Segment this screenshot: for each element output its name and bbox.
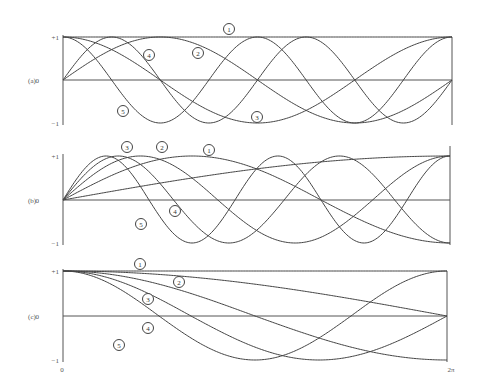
curve-label-badge: 5 bbox=[136, 219, 147, 230]
curve-label-badge: 5 bbox=[118, 106, 129, 117]
ytick-plus-one: +1 bbox=[52, 268, 60, 276]
badge-number: 2 bbox=[196, 50, 200, 58]
ytick-zero: 0 bbox=[36, 77, 40, 85]
badge-number: 4 bbox=[146, 325, 150, 333]
curve-label-badge: 4 bbox=[144, 50, 155, 61]
curve-2 bbox=[63, 271, 447, 316]
badge-number: 3 bbox=[125, 144, 129, 152]
badge-number: 1 bbox=[207, 147, 211, 155]
panel-label: (c) bbox=[28, 313, 36, 321]
panel-label: (a) bbox=[28, 77, 36, 85]
curve-label-badge: 2 bbox=[193, 48, 204, 59]
panel-b: +10−1(b)32145 bbox=[28, 142, 450, 248]
curve-label-badge: 1 bbox=[204, 145, 215, 156]
ytick-minus-one: −1 bbox=[52, 357, 60, 365]
badge-number: 5 bbox=[139, 221, 143, 229]
badge-number: 4 bbox=[147, 52, 151, 60]
ytick-plus-one: +1 bbox=[52, 34, 60, 42]
curve-label-badge: 3 bbox=[252, 112, 263, 123]
badge-number: 2 bbox=[160, 144, 164, 152]
xtick-zero: 0 bbox=[60, 366, 64, 374]
panel-c: +10−1(c)02π12345 bbox=[28, 259, 455, 375]
ytick-zero: 0 bbox=[36, 197, 40, 205]
ytick-plus-one: +1 bbox=[52, 153, 60, 161]
curve-label-badge: 1 bbox=[224, 24, 235, 35]
badge-number: 2 bbox=[177, 279, 181, 287]
curve-label-badge: 3 bbox=[143, 294, 154, 305]
curve-label-badge: 4 bbox=[170, 206, 181, 217]
badge-number: 3 bbox=[146, 296, 150, 304]
panel-a: +10−1(a)12345 bbox=[28, 24, 452, 128]
curve-label-badge: 4 bbox=[143, 323, 154, 334]
curve-label-badge: 5 bbox=[114, 340, 125, 351]
eigenfunction-figure: +10−1(a)12345 +10−1(b)32145 +10−1(c)02π1… bbox=[0, 0, 481, 390]
badge-number: 5 bbox=[121, 108, 125, 116]
curve-label-badge: 2 bbox=[174, 277, 185, 288]
badge-number: 1 bbox=[227, 26, 231, 34]
badge-number: 5 bbox=[117, 342, 121, 350]
panel-label: (b) bbox=[28, 197, 37, 205]
ytick-minus-one: −1 bbox=[52, 240, 60, 248]
badge-number: 1 bbox=[138, 261, 142, 269]
badge-number: 4 bbox=[173, 208, 177, 216]
badge-number: 3 bbox=[255, 114, 259, 122]
curve-label-badge: 2 bbox=[157, 142, 168, 153]
ytick-zero: 0 bbox=[36, 313, 40, 321]
ytick-minus-one: −1 bbox=[52, 120, 60, 128]
curve-label-badge: 3 bbox=[122, 142, 133, 153]
xtick-two-pi: 2π bbox=[447, 366, 455, 374]
curve-label-badge: 1 bbox=[135, 259, 146, 270]
